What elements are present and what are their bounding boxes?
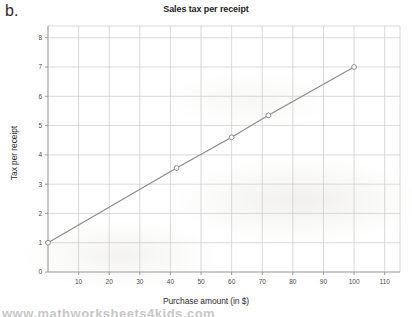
data-point-marker [352, 65, 357, 70]
y-tick-label: 2 [38, 210, 42, 217]
x-tick-label: 50 [197, 278, 205, 285]
x-tick-label: 30 [136, 278, 144, 285]
watermark-text: www.mathworksheets4kids.com [2, 306, 215, 317]
y-tick-label: 5 [38, 122, 42, 129]
x-tick-label: 90 [320, 278, 328, 285]
x-tick-label: 70 [259, 278, 267, 285]
y-tick-label: 3 [38, 181, 42, 188]
y-tick-label: 1 [38, 239, 42, 246]
y-tick-label: 7 [38, 63, 42, 70]
y-tick-label: 8 [38, 34, 42, 41]
x-tick-label: 80 [289, 278, 297, 285]
y-tick-label: 0 [38, 268, 42, 275]
data-point-marker [266, 113, 271, 118]
data-point-marker [46, 240, 51, 245]
x-tick-label: 10 [75, 278, 83, 285]
x-tick-label: 20 [106, 278, 114, 285]
x-tick-label: 110 [380, 278, 391, 285]
chart-plot-area: 012345678102030405060708090100110 [0, 0, 412, 317]
data-point-marker [174, 166, 179, 171]
y-tick-label: 6 [38, 93, 42, 100]
x-axis-title: Purchase amount (in $) [0, 296, 412, 306]
x-tick-label: 40 [167, 278, 175, 285]
x-tick-label: 100 [349, 278, 360, 285]
x-tick-label: 60 [228, 278, 236, 285]
y-tick-label: 4 [38, 151, 42, 158]
y-axis-title: Tax per receipt [9, 98, 19, 208]
data-point-marker [229, 135, 234, 140]
